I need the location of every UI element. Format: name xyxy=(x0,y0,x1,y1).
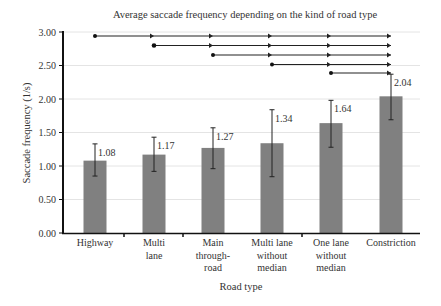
y-axis-label: Saccade frequency (1/s) xyxy=(21,82,33,183)
value-label: 1.64 xyxy=(334,103,352,114)
arrowhead-icon xyxy=(150,34,154,39)
x-category-line: One lane xyxy=(313,237,349,248)
y-tick-label: 0.00 xyxy=(39,228,57,239)
y-tick-label: 1.00 xyxy=(39,161,57,172)
value-label: 1.27 xyxy=(216,131,234,142)
y-tick-label: 2.00 xyxy=(39,94,57,105)
x-axis-label: Road type xyxy=(220,281,263,292)
chart-title: Average saccade frequency depending on t… xyxy=(113,9,378,20)
arrowhead-icon xyxy=(268,53,272,58)
x-category-label: Multi lanewithoutmedian xyxy=(251,237,293,273)
arrowhead-icon xyxy=(387,34,391,39)
bars: 1.081.171.271.341.642.04 xyxy=(84,74,412,233)
significance-origin-dot xyxy=(329,71,333,75)
arrowhead-icon xyxy=(327,62,331,67)
arrowhead-icon xyxy=(327,34,331,39)
x-category-line: Highway xyxy=(77,237,114,248)
arrowhead-icon xyxy=(387,53,391,58)
arrowhead-icon xyxy=(327,43,331,48)
x-category-line: median xyxy=(257,262,286,273)
x-category-line: Multi xyxy=(143,237,165,248)
x-category-label: Constriction xyxy=(366,237,415,248)
x-category-line: Main xyxy=(202,237,223,248)
x-category-line: without xyxy=(257,250,288,261)
arrowhead-icon xyxy=(209,34,213,39)
x-category-label: One lanewithoutmedian xyxy=(313,237,349,273)
x-category-label: Multilane xyxy=(143,237,165,261)
x-category-label: Highway xyxy=(77,237,114,248)
x-category-line: through- xyxy=(196,250,230,261)
arrowhead-icon xyxy=(268,34,272,39)
significance-origin-dot xyxy=(152,43,157,48)
y-tick-label: 1.50 xyxy=(39,127,57,138)
value-label: 2.04 xyxy=(394,77,412,88)
bar-chart: Average saccade frequency depending on t… xyxy=(0,0,441,306)
y-axis-ticks: 0.000.501.001.502.002.503.00 xyxy=(39,27,64,239)
value-label: 1.17 xyxy=(157,140,175,151)
arrowhead-icon xyxy=(268,43,272,48)
y-tick-label: 3.00 xyxy=(39,27,57,38)
x-category-line: Multi lane xyxy=(251,237,293,248)
y-tick-label: 0.50 xyxy=(39,194,57,205)
x-category-line: lane xyxy=(146,250,163,261)
value-label: 1.34 xyxy=(275,113,293,124)
arrowhead-icon xyxy=(387,62,391,67)
arrowhead-icon xyxy=(387,43,391,48)
arrowhead-icon xyxy=(387,71,391,76)
arrowhead-icon xyxy=(209,43,213,48)
x-category-line: road xyxy=(204,262,222,273)
x-category-label: Mainthrough-road xyxy=(196,237,230,273)
significance-origin-dot xyxy=(211,53,215,57)
significance-arrows xyxy=(93,34,391,76)
x-category-line: without xyxy=(316,250,347,261)
arrowhead-icon xyxy=(327,53,331,58)
x-category-line: median xyxy=(316,262,345,273)
y-tick-label: 2.50 xyxy=(39,60,57,71)
x-category-line: Constriction xyxy=(366,237,415,248)
value-label: 1.08 xyxy=(98,147,116,158)
significance-origin-dot xyxy=(93,34,97,38)
grid-lines xyxy=(63,32,420,200)
significance-origin-dot xyxy=(270,63,274,67)
x-axis-categories: HighwayMultilaneMainthrough-roadMulti la… xyxy=(77,233,416,273)
